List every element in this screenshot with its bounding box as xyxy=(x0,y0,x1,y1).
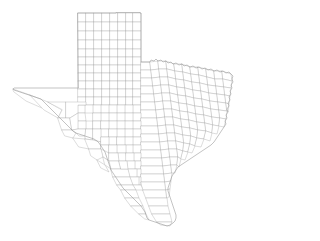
county-polygon[interactable] xyxy=(118,49,126,57)
county-polygon[interactable] xyxy=(110,97,118,105)
county-polygon[interactable] xyxy=(101,129,109,137)
county-polygon[interactable] xyxy=(118,97,126,105)
county-polygon[interactable] xyxy=(78,40,86,49)
county-polygon[interactable] xyxy=(182,127,191,136)
county-polygon[interactable] xyxy=(160,141,169,150)
county-polygon[interactable] xyxy=(154,93,163,102)
county-polygon[interactable] xyxy=(168,141,177,149)
county-polygon[interactable] xyxy=(215,79,224,87)
county-polygon[interactable] xyxy=(86,73,94,81)
county-polygon[interactable] xyxy=(161,149,170,158)
county-polygon[interactable] xyxy=(141,126,159,134)
county-polygon[interactable] xyxy=(162,157,171,166)
county-polygon[interactable] xyxy=(141,110,157,118)
county-polygon[interactable] xyxy=(141,118,158,126)
county-polygon[interactable] xyxy=(141,70,152,78)
county-polygon[interactable] xyxy=(78,57,86,65)
county-polygon[interactable] xyxy=(141,142,161,150)
county-polygon[interactable] xyxy=(78,121,86,129)
county-polygon[interactable] xyxy=(126,153,134,161)
county-polygon[interactable] xyxy=(174,64,183,72)
county-polygon[interactable] xyxy=(133,121,141,129)
county-polygon[interactable] xyxy=(102,65,110,73)
county-polygon[interactable] xyxy=(102,73,110,81)
county-polygon[interactable] xyxy=(179,103,188,112)
county-polygon[interactable] xyxy=(126,22,133,31)
county-polygon[interactable] xyxy=(151,69,160,78)
county-polygon[interactable] xyxy=(86,31,94,40)
county-polygon[interactable] xyxy=(126,65,133,73)
county-polygon[interactable] xyxy=(86,49,94,57)
county-polygon[interactable] xyxy=(102,40,110,49)
county-polygon[interactable] xyxy=(118,40,126,49)
county-polygon[interactable] xyxy=(141,94,155,102)
county-polygon[interactable] xyxy=(133,73,141,81)
county-polygon[interactable] xyxy=(86,121,93,129)
county-polygon[interactable] xyxy=(110,22,118,31)
county-polygon[interactable] xyxy=(175,71,184,80)
county-polygon[interactable] xyxy=(133,31,141,40)
county-polygon[interactable] xyxy=(118,89,126,97)
county-polygon[interactable] xyxy=(110,57,118,65)
county-polygon[interactable] xyxy=(194,98,203,107)
county-polygon[interactable] xyxy=(210,101,219,110)
county-polygon[interactable] xyxy=(149,206,170,214)
county-polygon[interactable] xyxy=(111,169,130,177)
county-polygon[interactable] xyxy=(93,113,101,121)
county-polygon[interactable] xyxy=(167,133,176,141)
county-polygon[interactable] xyxy=(78,65,86,73)
county-polygon[interactable] xyxy=(78,22,86,31)
county-polygon[interactable] xyxy=(109,145,117,153)
county-polygon[interactable] xyxy=(180,111,189,120)
county-polygon[interactable] xyxy=(214,71,223,79)
county-polygon[interactable] xyxy=(195,106,204,115)
county-polygon[interactable] xyxy=(137,169,141,177)
county-polygon[interactable] xyxy=(176,79,185,88)
county-polygon[interactable] xyxy=(86,89,94,97)
county-polygon[interactable] xyxy=(155,101,164,110)
county-polygon[interactable] xyxy=(169,149,178,157)
county-polygon[interactable] xyxy=(85,105,93,113)
county-polygon[interactable] xyxy=(118,73,126,81)
county-polygon[interactable] xyxy=(101,137,109,145)
county-polygon[interactable] xyxy=(141,134,160,142)
county-polygon[interactable] xyxy=(102,57,110,65)
county-polygon[interactable] xyxy=(94,65,102,73)
county-polygon[interactable] xyxy=(146,198,168,206)
county-polygon[interactable] xyxy=(126,89,133,97)
county-polygon[interactable] xyxy=(211,109,220,118)
county-polygon[interactable] xyxy=(133,105,141,113)
county-polygon[interactable] xyxy=(133,13,141,22)
county-polygon[interactable] xyxy=(78,113,86,121)
county-polygon[interactable] xyxy=(117,145,126,153)
county-polygon[interactable] xyxy=(161,85,170,93)
county-polygon[interactable] xyxy=(133,49,141,57)
county-polygon[interactable] xyxy=(94,57,102,65)
county-polygon[interactable] xyxy=(110,13,118,22)
county-polygon[interactable] xyxy=(133,137,141,145)
county-polygon[interactable] xyxy=(110,31,118,40)
county-polygon[interactable] xyxy=(117,113,125,121)
county-polygon[interactable] xyxy=(94,22,102,31)
county-polygon[interactable] xyxy=(162,93,171,101)
county-polygon[interactable] xyxy=(133,97,141,105)
county-polygon[interactable] xyxy=(183,135,191,144)
county-polygon[interactable] xyxy=(219,110,227,119)
county-polygon[interactable] xyxy=(125,105,133,113)
county-polygon[interactable] xyxy=(94,40,102,49)
county-polygon[interactable] xyxy=(212,117,220,126)
county-polygon[interactable] xyxy=(141,86,154,94)
county-polygon[interactable] xyxy=(159,133,168,142)
county-polygon[interactable] xyxy=(216,86,225,95)
county-polygon[interactable] xyxy=(133,40,141,49)
county-polygon[interactable] xyxy=(133,57,141,65)
county-polygon[interactable] xyxy=(181,119,190,128)
county-polygon[interactable] xyxy=(133,22,141,31)
county-polygon[interactable] xyxy=(110,89,118,97)
county-polygon[interactable] xyxy=(125,113,133,121)
county-polygon[interactable] xyxy=(133,145,141,153)
county-polygon[interactable] xyxy=(126,49,133,57)
county-polygon[interactable] xyxy=(93,105,101,113)
county-polygon[interactable] xyxy=(126,31,133,40)
county-polygon[interactable] xyxy=(191,74,200,83)
